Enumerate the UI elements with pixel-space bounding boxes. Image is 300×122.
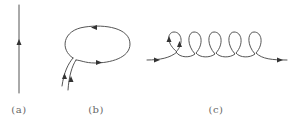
panel-b-figure (62, 25, 130, 90)
arrow-up-icon (62, 73, 67, 79)
panel-a-figure (17, 5, 22, 93)
arrow-right-icon (154, 58, 160, 63)
helix-curve (147, 32, 287, 60)
arrow-right-icon (277, 58, 283, 63)
arrow-up-icon (167, 36, 172, 42)
panel-b-label: (b) (88, 104, 104, 115)
closed-loop (65, 26, 130, 63)
arrow-right-icon (96, 60, 102, 65)
panel-a-label: (a) (11, 104, 26, 115)
tail-right (68, 60, 76, 90)
arrow-up-icon (17, 39, 22, 45)
panel-c-label: (c) (209, 104, 224, 115)
panel-c-figure (147, 32, 287, 63)
diagram-canvas (0, 0, 300, 122)
